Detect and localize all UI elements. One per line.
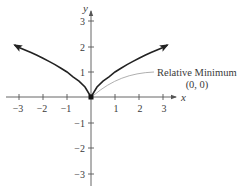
x-tick-label: 3 <box>162 103 167 114</box>
x-tick-label: 2 <box>138 103 143 114</box>
x-tick-label: −1 <box>61 103 72 114</box>
y-tick-label: 2 <box>80 42 85 53</box>
y-tick-label: 3 <box>80 16 85 27</box>
annotation-leader-line <box>94 72 154 95</box>
y-tick-label: −3 <box>74 169 85 180</box>
x-axis-label: x <box>180 91 186 103</box>
y-axis-label: y <box>82 2 88 14</box>
graph-figure: −3 −2 −1 1 2 3 x 3 2 1 −1 −2 −3 y <box>0 0 240 188</box>
relative-minimum-point <box>89 95 94 100</box>
y-tick-label: −1 <box>74 118 85 129</box>
x-tick-label: 1 <box>114 103 119 114</box>
x-tick-labels: −3 −2 −1 1 2 3 <box>13 103 167 114</box>
annotation-line1: Relative Minimum <box>157 67 237 78</box>
y-axis: 3 2 1 −1 −2 −3 y <box>74 2 94 186</box>
y-tick-label: −2 <box>74 143 85 154</box>
x-axis: −3 −2 −1 1 2 3 x <box>6 91 186 114</box>
curve-right-branch <box>91 45 167 97</box>
annotation-line2: (0, 0) <box>186 79 209 91</box>
y-tick-label: 1 <box>80 67 85 78</box>
x-tick-label: −2 <box>37 103 48 114</box>
annotation: Relative Minimum (0, 0) <box>157 67 237 91</box>
x-tick-label: −3 <box>13 103 24 114</box>
y-tick-labels: 3 2 1 −1 −2 −3 <box>74 16 85 180</box>
